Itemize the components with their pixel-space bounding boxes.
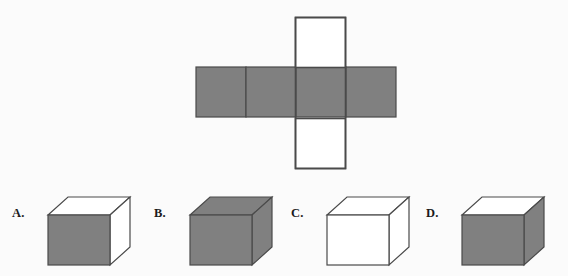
cube-a-front-face	[48, 215, 110, 265]
option-a-label: A.	[12, 207, 25, 220]
option-a[interactable]: A.	[6, 190, 146, 276]
net-square-h1	[196, 67, 246, 117]
cube-a-svg	[40, 193, 140, 273]
option-c-cube	[319, 193, 419, 273]
cube-net-svg	[0, 0, 568, 190]
cube-b-svg	[182, 193, 282, 273]
option-b-cube	[182, 193, 282, 273]
option-b-label: B.	[154, 207, 166, 220]
net-square-v-top	[296, 18, 346, 68]
cube-c-svg	[319, 193, 419, 273]
net-square-h3	[296, 67, 346, 117]
option-d-cube	[454, 193, 554, 273]
cube-b-front-face	[190, 215, 252, 265]
option-d[interactable]: D.	[420, 190, 560, 276]
net-square-h4	[346, 67, 396, 117]
cube-d-front-face	[462, 215, 524, 265]
cube-c-front-face	[327, 215, 389, 265]
net-square-h2	[246, 67, 296, 117]
option-c[interactable]: C.	[285, 190, 425, 276]
cube-d-svg	[454, 193, 554, 273]
net-square-v-bottom	[296, 119, 346, 169]
option-a-cube	[40, 193, 140, 273]
answer-options-row: A. B. C.	[0, 190, 568, 276]
cube-net-diagram	[0, 0, 568, 190]
option-b[interactable]: B.	[148, 190, 288, 276]
question-page: A. B. C.	[0, 0, 568, 276]
option-c-label: C.	[291, 207, 304, 220]
option-d-label: D.	[426, 207, 439, 220]
